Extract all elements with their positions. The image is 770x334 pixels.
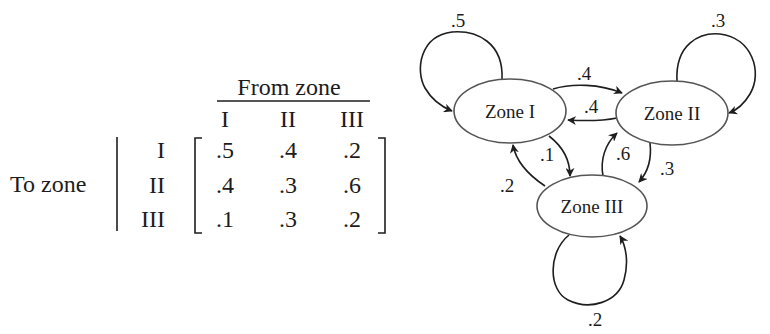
row-header: II	[149, 172, 165, 198]
node-label: Zone I	[485, 101, 535, 122]
matrix-row: .1 .3 .2	[216, 206, 361, 232]
node-zone-2: Zone II	[616, 81, 728, 145]
matrix-cell: .2	[343, 137, 361, 163]
node-label: Zone III	[561, 196, 624, 217]
diagram-canvas: From zone I II III To zone I II III .5 .…	[0, 0, 770, 334]
matrix-cell: .3	[279, 172, 297, 198]
edge-label: .6	[616, 143, 630, 164]
self-loop-arrow-zone-3	[553, 235, 626, 305]
arrow-zone-1-to-zone-2	[553, 85, 622, 93]
edge-label: .4	[584, 96, 599, 117]
edge-label: .3	[660, 158, 674, 179]
matrix-row: .5 .4 .2	[216, 137, 361, 163]
column-group-label: From zone	[237, 74, 340, 100]
arrow-zone-2-to-zone-1	[568, 118, 617, 121]
column-header: III	[340, 106, 364, 132]
row-headers: I II III	[141, 137, 165, 232]
column-headers: I II III	[221, 106, 364, 132]
arrow-zone-3-to-zone-2	[602, 133, 617, 176]
node-zone-1: Zone I	[454, 79, 566, 143]
node-zone-3: Zone III	[537, 175, 647, 237]
matrix-cell: .4	[216, 172, 234, 198]
edge-label: .4	[577, 63, 592, 84]
transition-graph: .5 .3 .2 .4 .4 .1 .2 .6 .3 Zone I Zone I…	[420, 10, 755, 330]
row-header: III	[141, 206, 165, 232]
edge-label: .5	[451, 10, 465, 31]
row-group-label: To zone	[10, 171, 86, 197]
matrix-cell: .6	[343, 172, 361, 198]
matrix-cell: .2	[343, 206, 361, 232]
column-header: II	[280, 106, 296, 132]
matrix-cell: .5	[216, 137, 234, 163]
row-header: I	[157, 137, 165, 163]
matrix-row: .4 .3 .6	[216, 172, 361, 198]
node-label: Zone II	[644, 103, 700, 124]
matrix-cell: .1	[216, 206, 234, 232]
right-bracket	[378, 138, 385, 233]
edge-label: .1	[540, 144, 554, 165]
edge-label: .2	[500, 175, 514, 196]
left-bracket	[195, 138, 202, 233]
matrix-cell: .3	[279, 206, 297, 232]
arrow-zone-2-to-zone-3	[639, 143, 651, 182]
column-header: I	[221, 106, 229, 132]
edge-label: .3	[711, 10, 725, 31]
transition-matrix: From zone I II III To zone I II III .5 .…	[10, 74, 385, 233]
edge-label: .2	[588, 309, 602, 330]
matrix-cell: .4	[279, 137, 297, 163]
